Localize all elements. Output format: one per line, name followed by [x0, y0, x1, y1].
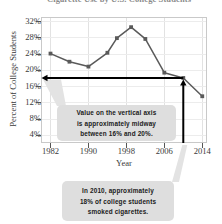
- x-tick-mark: [88, 143, 89, 148]
- midway-callout-line-2: is approximately midway: [59, 119, 174, 130]
- y-tick-mark: [36, 54, 41, 55]
- midway-callout: Value on the vertical axis is approximat…: [57, 105, 176, 141]
- year-2010-callout-line-2: 18% of college students: [64, 197, 172, 208]
- midway-callout-line-1: Value on the vertical axis: [59, 108, 174, 119]
- y-axis-title: Percent of College Students: [8, 9, 18, 149]
- y-gridline: [42, 70, 206, 71]
- y-tick-mark: [36, 102, 41, 103]
- x-tick-mark: [50, 143, 51, 148]
- y-gridline: [42, 37, 206, 38]
- x-tick-mark: [164, 143, 165, 148]
- y-gridline: [42, 102, 206, 103]
- y-tick-mark: [36, 70, 41, 71]
- x-tick-mark: [126, 143, 127, 148]
- year-2010-callout: In 2010, approximately 18% of college st…: [62, 181, 174, 221]
- midway-callout-line-3: between 16% and 20%.: [59, 129, 174, 140]
- y-gridline: [42, 21, 206, 22]
- y-tick-mark: [36, 119, 41, 120]
- y-gridline: [42, 86, 206, 87]
- chart-title: Cigarette Use by U.S. College Students: [34, 0, 204, 5]
- year-2010-callout-line-3: smoked cigarettes.: [64, 207, 172, 218]
- x-axis-title: Year: [41, 158, 207, 168]
- y-tick-mark: [36, 21, 41, 22]
- y-tick-mark: [36, 86, 41, 87]
- chart-figure: Cigarette Use by U.S. College Students P…: [0, 0, 222, 224]
- y-tick-mark: [36, 37, 41, 38]
- y-gridline: [42, 54, 206, 55]
- x-tick-mark: [202, 143, 203, 148]
- y-tick-mark: [36, 135, 41, 136]
- year-2010-callout-line-1: In 2010, approximately: [64, 186, 172, 197]
